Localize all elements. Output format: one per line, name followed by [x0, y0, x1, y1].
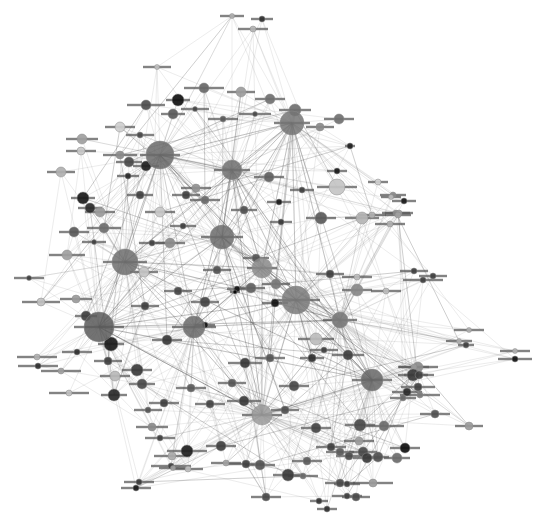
graph-node[interactable] — [356, 212, 368, 224]
graph-node[interactable] — [362, 453, 372, 463]
graph-node[interactable] — [124, 157, 134, 167]
graph-node[interactable] — [180, 223, 186, 229]
hub-node[interactable] — [280, 111, 304, 135]
graph-node[interactable] — [37, 298, 45, 306]
graph-node[interactable] — [411, 268, 417, 274]
graph-node[interactable] — [375, 179, 381, 185]
graph-node[interactable] — [201, 196, 209, 204]
graph-node[interactable] — [463, 342, 469, 348]
graph-node[interactable] — [250, 26, 256, 32]
graph-node[interactable] — [344, 493, 350, 499]
hub-node[interactable] — [252, 405, 272, 425]
graph-node[interactable] — [230, 14, 235, 19]
graph-node[interactable] — [171, 466, 176, 471]
graph-node[interactable] — [343, 350, 353, 360]
graph-node[interactable] — [373, 452, 383, 462]
graph-node[interactable] — [77, 192, 89, 204]
graph-node[interactable] — [139, 267, 149, 277]
graph-node[interactable] — [200, 297, 210, 307]
graph-node[interactable] — [329, 179, 345, 195]
graph-node[interactable] — [27, 276, 32, 281]
graph-node[interactable] — [392, 453, 402, 463]
graph-node[interactable] — [74, 349, 80, 355]
graph-node[interactable] — [299, 187, 305, 193]
graph-node[interactable] — [512, 356, 518, 362]
graph-node[interactable] — [401, 198, 407, 204]
graph-node[interactable] — [271, 299, 279, 307]
graph-node[interactable] — [389, 195, 394, 200]
graph-node[interactable] — [115, 122, 125, 132]
graph-node[interactable] — [354, 419, 366, 431]
graph-node[interactable] — [276, 199, 282, 205]
graph-node[interactable] — [157, 435, 163, 441]
graph-node[interactable] — [336, 479, 344, 487]
graph-node[interactable] — [223, 460, 229, 466]
hub-node[interactable] — [112, 249, 138, 275]
graph-node[interactable] — [239, 396, 249, 406]
graph-node[interactable] — [369, 479, 377, 487]
hub-node[interactable] — [282, 286, 310, 314]
graph-node[interactable] — [355, 437, 363, 445]
graph-node[interactable] — [108, 389, 120, 401]
graph-node[interactable] — [162, 335, 172, 345]
graph-node[interactable] — [168, 109, 178, 119]
graph-node[interactable] — [311, 423, 321, 433]
graph-node[interactable] — [324, 506, 330, 512]
graph-node[interactable] — [326, 270, 334, 278]
graph-node[interactable] — [137, 132, 143, 138]
graph-node[interactable] — [400, 395, 406, 401]
graph-node[interactable] — [77, 134, 87, 144]
graph-node[interactable] — [347, 143, 353, 149]
graph-node[interactable] — [513, 349, 518, 354]
graph-node[interactable] — [344, 481, 350, 487]
graph-node[interactable] — [255, 460, 265, 470]
graph-node[interactable] — [278, 219, 284, 225]
hub-node[interactable] — [146, 141, 174, 169]
graph-node[interactable] — [431, 410, 439, 418]
graph-node[interactable] — [136, 479, 142, 485]
graph-node[interactable] — [35, 363, 41, 369]
graph-node[interactable] — [181, 445, 193, 457]
hub-node[interactable] — [332, 312, 348, 328]
graph-node[interactable] — [300, 473, 306, 479]
graph-node[interactable] — [240, 358, 250, 368]
graph-node[interactable] — [125, 173, 131, 179]
graph-node[interactable] — [321, 347, 327, 353]
graph-node[interactable] — [193, 107, 198, 112]
graph-node[interactable] — [387, 221, 393, 227]
graph-node[interactable] — [414, 383, 422, 391]
graph-node[interactable] — [95, 207, 105, 217]
graph-node[interactable] — [315, 212, 327, 224]
graph-node[interactable] — [420, 277, 426, 283]
graph-node[interactable] — [136, 191, 144, 199]
hub-node[interactable] — [210, 225, 234, 249]
graph-node[interactable] — [182, 191, 190, 199]
graph-node[interactable] — [174, 287, 182, 295]
graph-node[interactable] — [265, 94, 275, 104]
graph-node[interactable] — [334, 114, 344, 124]
graph-node[interactable] — [116, 151, 124, 159]
graph-node[interactable] — [334, 168, 340, 174]
graph-node[interactable] — [415, 371, 423, 379]
graph-node[interactable] — [220, 116, 226, 122]
graph-node[interactable] — [160, 399, 168, 407]
graph-node[interactable] — [99, 223, 109, 233]
hub-node[interactable] — [84, 312, 114, 342]
graph-node[interactable] — [316, 123, 324, 131]
graph-node[interactable] — [467, 328, 472, 333]
graph-node[interactable] — [383, 288, 389, 294]
graph-node[interactable] — [149, 240, 155, 246]
graph-node[interactable] — [110, 371, 120, 381]
graph-node[interactable] — [395, 212, 401, 218]
graph-node[interactable] — [199, 83, 209, 93]
graph-node[interactable] — [262, 493, 270, 501]
graph-node[interactable] — [354, 274, 360, 280]
graph-node[interactable] — [403, 388, 411, 396]
graph-node[interactable] — [185, 466, 191, 472]
graph-node[interactable] — [240, 206, 248, 214]
graph-node[interactable] — [351, 284, 363, 296]
graph-node[interactable] — [281, 406, 289, 414]
graph-node[interactable] — [155, 207, 165, 217]
graph-node[interactable] — [155, 65, 160, 70]
graph-node[interactable] — [246, 283, 256, 293]
